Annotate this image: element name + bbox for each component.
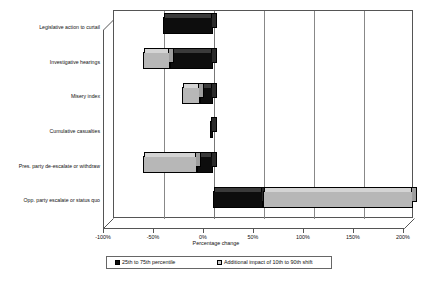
- legend-label-additional-impact: Additional impact of 10th to 90th shift: [224, 259, 312, 265]
- x-tick-mark: [253, 228, 254, 233]
- x-tick-mark: [153, 228, 154, 233]
- x-tick-mark: [353, 228, 354, 233]
- bar-chart: Legislative action to curtailInvestigati…: [0, 0, 432, 287]
- chart-legend: 25th to 75th percentile Additional impac…: [106, 256, 332, 269]
- legend-entry-additional-impact: Additional impact of 10th to 90th shift: [217, 259, 312, 265]
- legend-swatch-gray-icon: [217, 260, 222, 265]
- legend-entry-percentile: 25th to 75th percentile: [115, 259, 175, 265]
- legend-swatch-black-icon: [115, 260, 120, 265]
- x-axis-title: Percentage change: [0, 240, 432, 246]
- x-tick-mark: [103, 228, 104, 233]
- x-tick-mark: [403, 228, 404, 233]
- x-tick-mark: [303, 228, 304, 233]
- legend-label-percentile: 25th to 75th percentile: [122, 259, 175, 265]
- x-tick-mark: [203, 228, 204, 233]
